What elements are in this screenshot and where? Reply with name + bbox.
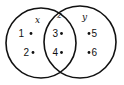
intersection-z-label: z <box>56 10 62 20</box>
element-4-dot <box>60 51 63 54</box>
element-3-dot <box>60 32 63 35</box>
element-5-label: 5 <box>92 28 98 39</box>
element-1-label: 1 <box>18 28 24 39</box>
element-4-label: 4 <box>52 47 58 58</box>
element-2-label: 2 <box>23 47 29 58</box>
element-2-dot <box>32 51 35 54</box>
set-x-label: x <box>35 15 40 25</box>
set-y-label: y <box>81 12 88 22</box>
element-5-dot <box>88 32 91 35</box>
venn-diagram: x z y 1 2 3 4 5 6 <box>0 0 124 85</box>
element-6-dot <box>88 51 91 54</box>
set-x-circle <box>6 8 76 78</box>
element-1-dot <box>30 32 33 35</box>
element-6-label: 6 <box>92 47 98 58</box>
set-y-circle <box>44 6 116 78</box>
element-3-label: 3 <box>52 28 58 39</box>
